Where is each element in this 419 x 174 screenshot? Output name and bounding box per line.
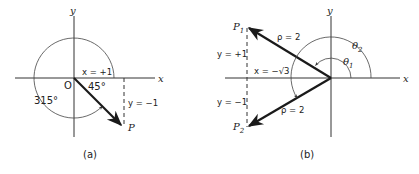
rho1-label: ρ = 2 [277, 32, 300, 42]
theta2-subscript: 2 [357, 46, 363, 54]
theta1-subscript: 1 [349, 62, 353, 70]
p2-subscript: 2 [239, 127, 245, 135]
y-neg-label: y = −1 [217, 97, 247, 107]
x-axis-label: x [403, 73, 409, 84]
x-value-label: x = −√3 [254, 66, 290, 76]
point-p2-label: P2 [232, 121, 245, 135]
p1-subscript: 1 [240, 27, 244, 35]
caption-b: (b) [300, 149, 314, 160]
panel-b: x y P1 P2 ρ = 2 ρ = 2 y = +1 y = −1 x = … [217, 5, 409, 160]
theta1-label: θ1 [343, 56, 354, 70]
angle-315-label: 315° [34, 95, 58, 106]
x-value-label: x = +1 [82, 67, 112, 77]
panel-a: x y O x = +1 45° 315° y = −1 P (a) [15, 5, 164, 160]
point-p-label: P [127, 122, 135, 133]
caption-a: (a) [83, 149, 97, 160]
x-axis-label: x [158, 73, 164, 84]
origin-label: O [64, 80, 72, 91]
polar-coordinates-figure: x y O x = +1 45° 315° y = −1 P (a) x y P… [0, 0, 419, 174]
y-axis-label: y [326, 5, 333, 16]
rho2-label: ρ = 2 [281, 105, 304, 115]
y-pos-label: y = +1 [217, 49, 247, 59]
vector-op2 [249, 78, 331, 126]
point-p1-label: P1 [232, 21, 244, 35]
y-value-label: y = −1 [128, 98, 158, 108]
angle-45-label: 45° [88, 81, 106, 92]
theta2-label: θ2 [352, 40, 363, 54]
y-axis-label: y [69, 5, 76, 16]
